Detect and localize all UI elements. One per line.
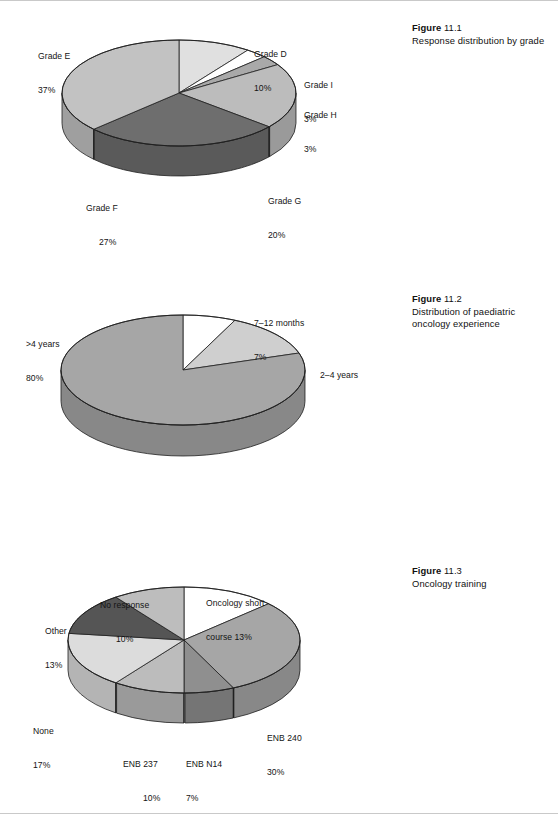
- figure-caption-11-3-number: 11.3: [444, 565, 462, 576]
- pie-label-enb-237-name: ENB 237: [123, 759, 160, 770]
- pie-label-grade-e-value: 37%: [38, 85, 70, 96]
- pie-label-enb-n14-name: ENB N14: [186, 759, 222, 770]
- pie-label-7-12-months: 7–12 months 7%: [254, 295, 304, 386]
- pie-label-oncology-short-course-value: course 13%: [206, 632, 265, 643]
- pie-label-7-12-months-name: 7–12 months: [254, 318, 304, 329]
- pie-label-grade-d: Grade D 10%: [254, 26, 287, 117]
- pie-label-grade-h-name: Grade H: [304, 110, 337, 121]
- pie-label-grade-h-value: 3%: [304, 144, 337, 155]
- pie-label-grade-f-value: 27%: [86, 237, 118, 248]
- figure-caption-11-1-body: Response distribution by grade: [412, 35, 552, 48]
- figure-caption-11-2-number: 11.2: [444, 293, 462, 304]
- figure-11-1: Grade E 37% Grade D 10% Grade I 3% Grade…: [0, 0, 558, 270]
- pie-label-2-4-years: 2–4 years: [320, 347, 358, 404]
- pie-label-enb-n14: ENB N14 7%: [186, 736, 222, 814]
- pie-label-other-value: 13%: [45, 660, 67, 671]
- pie-label-2-4-years-name: 2–4 years: [320, 370, 358, 381]
- figure-caption-11-3-head: Figure 11.3: [412, 565, 552, 578]
- pie-label-none-name: None: [33, 726, 54, 737]
- pie-label-other: Other 13%: [45, 603, 67, 694]
- pie-label-oncology-short-course-name: Oncology short: [206, 598, 265, 609]
- pie-label-enb-n14-value: 7%: [186, 793, 222, 804]
- figure-caption-11-1: Figure 11.1 Response distribution by gra…: [412, 22, 552, 47]
- pie-label-gt-4-years-value: 80%: [26, 373, 60, 384]
- pie-label-enb-240-value: 30%: [267, 767, 302, 778]
- pie-label-7-12-months-value: 7%: [254, 352, 304, 363]
- pie-label-enb-237: ENB 237 10%: [123, 736, 160, 814]
- figure-caption-11-3-label: Figure: [412, 565, 441, 576]
- pie-label-grade-e-name: Grade E: [38, 51, 70, 62]
- pie-label-grade-d-value: 10%: [254, 83, 287, 94]
- pie-label-grade-g-value: 20%: [268, 230, 301, 241]
- figure-caption-11-2-label: Figure: [412, 293, 441, 304]
- figure-caption-11-2-number-wrap: 11.2: [441, 293, 462, 304]
- pie-label-no-response-name: No response: [100, 600, 149, 611]
- pie-label-grade-f: Grade F 27%: [86, 180, 118, 271]
- figure-caption-11-3: Figure 11.3 Oncology training: [412, 565, 552, 590]
- figure-caption-11-2-head: Figure 11.2: [412, 293, 552, 306]
- pie-label-enb-240-name: ENB 240: [267, 733, 302, 744]
- pie-label-no-response: No response 10%: [100, 577, 149, 668]
- pie-label-no-response-value: 10%: [100, 634, 149, 645]
- figure-caption-11-2: Figure 11.2 Distribution of paediatric o…: [412, 293, 552, 331]
- pie-label-grade-g-name: Grade G: [268, 196, 301, 207]
- page-canvas: Grade E 37% Grade D 10% Grade I 3% Grade…: [0, 0, 558, 814]
- pie-label-gt-4-years-name: >4 years: [26, 339, 60, 350]
- figure-caption-11-3-body: Oncology training: [412, 578, 552, 591]
- pie-label-enb-237-value: 10%: [123, 793, 160, 804]
- figure-11-3: No response 10% Oncology short course 13…: [0, 540, 558, 814]
- figure-caption-11-1-head: Figure 11.1: [412, 22, 552, 35]
- pie-label-grade-h: Grade H 3%: [304, 87, 337, 178]
- pie-label-enb-240: ENB 240 30%: [267, 710, 302, 801]
- pie-chart-11-2-svg: [0, 275, 380, 540]
- pie-label-none: None 17%: [33, 703, 54, 794]
- pie-label-none-value: 17%: [33, 760, 54, 771]
- pie-label-gt-4-years: >4 years 80%: [26, 316, 60, 407]
- figure-caption-11-3-number-wrap: 11.3: [441, 565, 462, 576]
- figure-caption-11-1-number-wrap: 11.1: [441, 22, 462, 33]
- pie-label-grade-f-name: Grade F: [86, 203, 118, 214]
- figure-caption-11-1-label: Figure: [412, 22, 441, 33]
- pie-label-oncology-short-course: Oncology short course 13%: [206, 575, 265, 666]
- pie-label-other-name: Other: [45, 626, 67, 637]
- pie-label-grade-g: Grade G 20%: [268, 173, 301, 264]
- figure-caption-11-2-body: Distribution of paediatric oncology expe…: [412, 306, 552, 331]
- figure-caption-11-1-number: 11.1: [444, 22, 462, 33]
- figure-11-2: >4 years 80% 7–12 months 7% 2–4 years Fi…: [0, 275, 558, 540]
- pie-label-grade-e: Grade E 37%: [38, 28, 70, 119]
- pie-label-grade-d-name: Grade D: [254, 49, 287, 60]
- pie-chart-11-2: [0, 275, 380, 540]
